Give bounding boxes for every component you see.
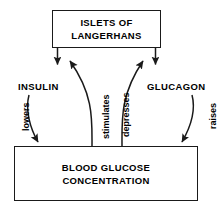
glucose-line-2: CONCENTRATION xyxy=(62,174,149,187)
islets-line-2: LANGERHANS xyxy=(71,29,142,42)
depresses-label: depresses xyxy=(121,92,131,137)
islets-line-1: ISLETS OF xyxy=(80,16,132,29)
insulin-label: INSULIN xyxy=(18,81,59,92)
endocrine-feedback-diagram: ISLETS OF LANGERHANS BLOOD GLUCOSE CONCE… xyxy=(0,0,220,210)
blood-glucose-box: BLOOD GLUCOSE CONCENTRATION xyxy=(14,146,198,201)
glucose-line-1: BLOOD GLUCOSE xyxy=(62,161,150,174)
glucagon-label: GLUCAGON xyxy=(147,81,206,92)
islets-of-langerhans-box: ISLETS OF LANGERHANS xyxy=(52,10,161,48)
stimulates-label: stimulates xyxy=(101,94,111,139)
raises-label: raises xyxy=(208,103,218,129)
lowers-label: lowers xyxy=(21,102,31,131)
arrow-raises xyxy=(182,95,193,142)
arrow-stimulates xyxy=(70,61,92,146)
